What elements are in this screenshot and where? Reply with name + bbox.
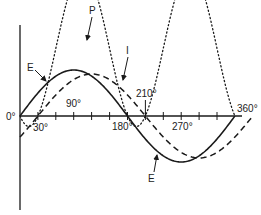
arrow-E-top bbox=[35, 70, 46, 81]
tick-label-210: 210° bbox=[136, 88, 157, 99]
tick-label-0: 0° bbox=[6, 111, 16, 122]
power-curve-P bbox=[20, 0, 235, 126]
tick-label-90: 90° bbox=[66, 98, 81, 109]
tick-label-30: 30° bbox=[33, 122, 48, 133]
arrow-I bbox=[123, 57, 128, 80]
arrow-P bbox=[87, 17, 92, 40]
label-I: I bbox=[126, 45, 129, 56]
label-E-bottom: E bbox=[148, 173, 155, 184]
ac-power-phase-diagram: P E I E 0° 30° 90° 180° 210° 270° 360° bbox=[0, 0, 261, 215]
label-E-top: E bbox=[27, 62, 34, 73]
arrow-E-bottom bbox=[154, 155, 157, 172]
label-P: P bbox=[89, 5, 96, 16]
tick-label-270: 270° bbox=[172, 121, 193, 132]
tick-label-180: 180° bbox=[112, 121, 133, 132]
tick-label-360: 360° bbox=[237, 103, 258, 114]
